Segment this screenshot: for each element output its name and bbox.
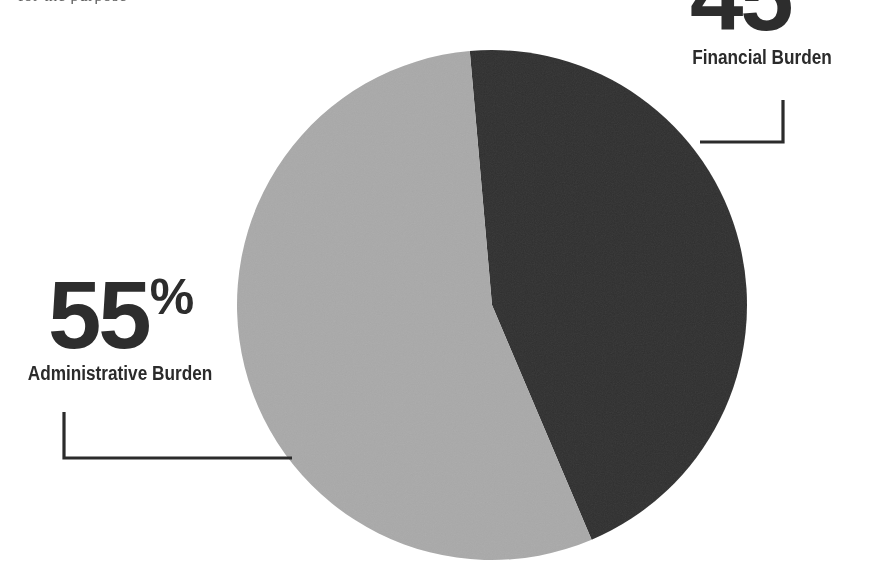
percent-number-financial: 45 [690, 0, 791, 50]
percent-value-financial: 45% [636, 0, 887, 40]
callout-financial-burden: 45% Financial Burden [636, 0, 887, 69]
pie-chart-figure: for the purpose [0, 0, 887, 569]
percent-value-administrative: 55% [4, 272, 236, 358]
category-label-financial: Financial Burden [654, 46, 871, 69]
percent-symbol-administrative: % [150, 269, 193, 325]
category-label-administrative: Administrative Burden [20, 362, 220, 385]
paper-grain-texture [237, 50, 747, 560]
percent-number-administrative: 55 [48, 261, 149, 368]
percent-symbol-financial: % [792, 0, 835, 7]
callout-administrative-burden: 55% Administrative Burden [4, 272, 236, 385]
